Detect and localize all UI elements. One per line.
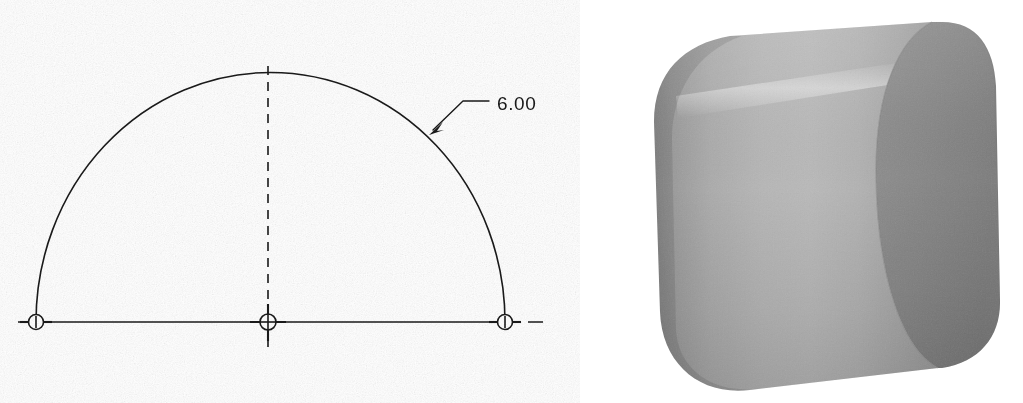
model-canvas xyxy=(580,0,1023,403)
sketch-canvas: 6.00 xyxy=(0,0,580,403)
drawing-page: 6.00 xyxy=(0,0,1023,403)
sketch-view: 6.00 xyxy=(0,0,580,403)
halftone-texture xyxy=(640,10,1020,403)
model-view xyxy=(580,0,1023,403)
scan-texture-sketch xyxy=(0,0,580,403)
